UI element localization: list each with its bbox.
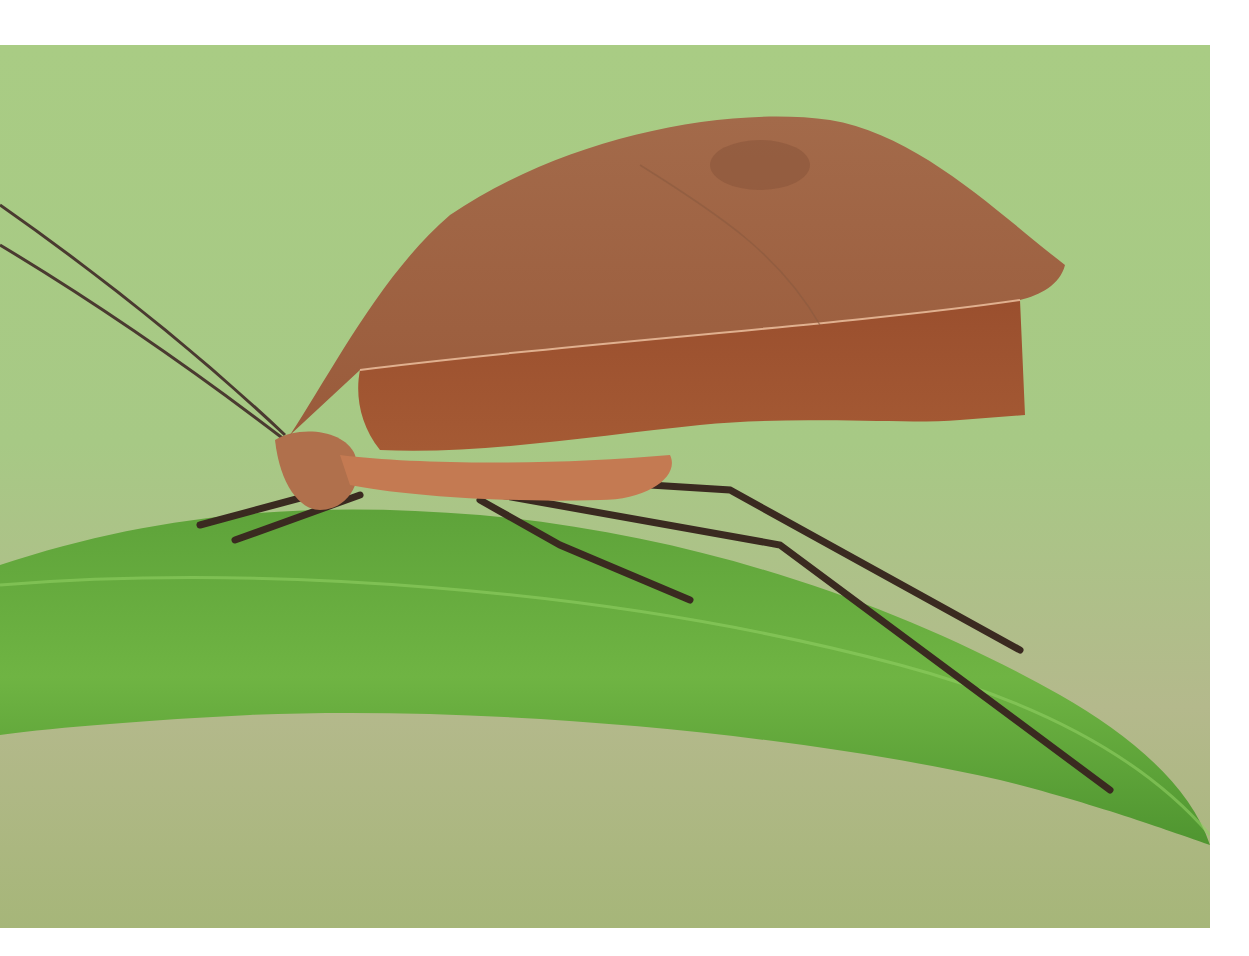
wing-dark-spot: [710, 140, 810, 190]
katydid-photo-illustration: [0, 45, 1210, 928]
photo: [0, 45, 1210, 928]
